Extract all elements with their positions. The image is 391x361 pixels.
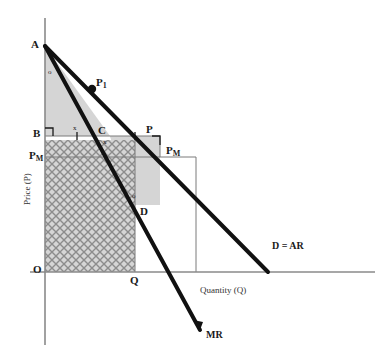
label-demand-curve: D = AR — [272, 240, 304, 251]
label-point-p: P — [146, 123, 153, 135]
label-pm-curve-sub: M — [173, 149, 181, 158]
label-point-d: D — [140, 205, 148, 217]
label-pm-axis-base: P — [29, 149, 36, 161]
label-point-p1-sub: 1 — [103, 81, 107, 90]
mark-segment-bc: x — [73, 124, 77, 132]
label-point-a: A — [31, 38, 39, 50]
label-mr-curve: MR — [206, 329, 223, 340]
label-pm-axis-sub: M — [36, 154, 44, 163]
label-origin: O — [33, 263, 42, 275]
label-point-c: C — [98, 124, 106, 136]
label-point-p1-base: P — [96, 76, 103, 88]
label-point-b: B — [33, 127, 40, 139]
x-axis-label: Quantity (Q) — [200, 285, 246, 295]
economics-diagram-svg — [0, 0, 391, 361]
figure-canvas: A B C D P P1 PM PM Q O x x o o D = AR MR… — [0, 0, 391, 361]
point-p1-marker — [88, 85, 96, 93]
region-hatched-revenue — [45, 140, 135, 272]
region-triangle-abc — [45, 46, 110, 136]
label-point-q: Q — [130, 274, 139, 286]
label-pm-axis: PM — [29, 149, 43, 163]
angle-marker-a: o — [48, 68, 52, 76]
angle-marker-d: o — [132, 192, 136, 200]
label-pm-curve-base: P — [166, 144, 173, 156]
label-point-p1: P1 — [96, 76, 107, 90]
mark-segment-cp: x — [103, 138, 107, 146]
y-axis-label: Price (P) — [22, 173, 32, 205]
label-pm-curve: PM — [166, 144, 180, 158]
